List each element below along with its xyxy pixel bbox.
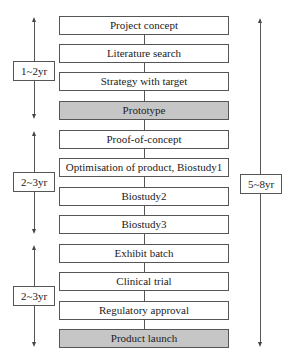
connector [144,263,145,272]
connector [144,234,145,244]
step-optimisation-biostudy1: Optimisation of product, Biostudy1 [59,158,229,177]
step-regulatory-approval: Regulatory approval [59,301,229,320]
step-strategy-with-target: Strategy with target [59,72,229,91]
step-literature-search: Literature search [59,44,229,63]
connector [144,120,145,130]
arrow-down-icon [258,342,262,347]
phase3-duration-label: 2~3yr [13,286,55,306]
step-project-concept: Project concept [59,16,229,35]
arrow-down-icon [32,114,36,119]
phase2-duration-label: 2~3yr [13,172,55,192]
step-biostudy3: Biostudy3 [59,215,229,234]
connector [144,177,145,187]
connector [144,91,145,101]
connector [144,206,145,215]
step-clinical-trial: Clinical trial [59,272,229,291]
step-biostudy2: Biostudy2 [59,187,229,206]
step-product-launch: Product launch [59,329,229,348]
step-exhibit-batch: Exhibit batch [59,244,229,263]
arrow-down-icon [32,342,36,347]
total-duration-label: 5~8yr [240,174,282,194]
step-proof-of-concept: Proof-of-concept [59,130,229,149]
step-prototype: Prototype [59,101,229,120]
connector [144,63,145,72]
connector [144,35,145,44]
phase1-duration-label: 1~2yr [13,61,55,81]
connector [144,149,145,158]
connector [144,320,145,329]
arrow-down-icon [32,229,36,234]
